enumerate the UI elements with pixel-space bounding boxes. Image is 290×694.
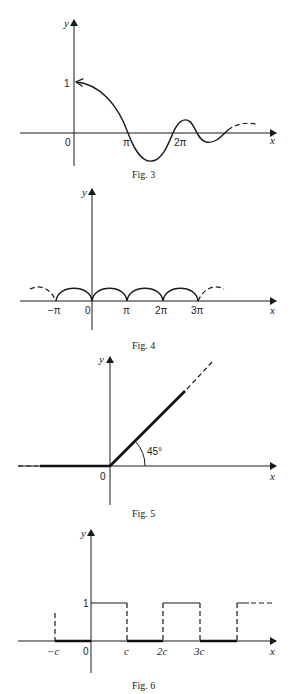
x-tick-neg-c: −c [47, 645, 59, 657]
fig-3-caption: Fig. 3 [132, 169, 155, 180]
x-tick-c: c [124, 645, 129, 657]
x-axis-label: x [269, 134, 275, 146]
fig-5-caption: Fig. 5 [132, 508, 155, 519]
y-axis-label: y [80, 527, 86, 539]
figure-4: y x −π 0 π 2π 3π Fig. 4 [20, 186, 276, 351]
y-tick-1: 1 [64, 78, 70, 89]
x-tick-pi: π [123, 305, 130, 316]
arch-continuation-right [198, 287, 224, 301]
x-tick-2pi: 2π [174, 137, 187, 148]
y-axis-label: y [63, 17, 69, 29]
x-tick-neg-pi: −π [48, 305, 61, 316]
x-tick-3c: 3c [193, 645, 205, 657]
ramp-continuation [187, 362, 212, 389]
fig-6-caption: Fig. 6 [132, 680, 155, 691]
figure-3: y x 1 0 π 2π Fig. 3 [20, 17, 276, 180]
y-axis-label: y [98, 353, 104, 365]
y-tick-1: 1 [83, 598, 89, 609]
x-tick-pi: π [123, 137, 130, 148]
figures-canvas: y x 1 0 π 2π Fig. 3 y x −π 0 π 2π 3π Fig… [0, 0, 290, 694]
origin-label: 0 [65, 137, 71, 148]
curve-continuation [228, 123, 256, 130]
fig-4-caption: Fig. 4 [132, 340, 155, 351]
x-tick-0: 0 [83, 646, 89, 657]
arches-curve [56, 288, 198, 301]
y-axis-label: y [81, 186, 87, 198]
angle-label: 45° [147, 446, 162, 457]
x-axis-label: x [269, 470, 275, 482]
x-tick-2pi: 2π [155, 305, 168, 316]
x-tick-2c: 2c [157, 645, 168, 657]
figure-6: y x 1 −c 0 c 2c 3c Fig. 6 [18, 527, 276, 691]
x-axis-label: x [269, 304, 275, 316]
x-axis-label: x [269, 645, 275, 657]
damped-oscillation-curve [76, 82, 228, 161]
x-tick-3pi: 3π [191, 305, 204, 316]
x-tick-0: 0 [85, 305, 91, 316]
origin-label: 0 [100, 471, 106, 482]
figure-5: y x 0 45° Fig. 5 [18, 353, 276, 519]
angle-arc [135, 441, 145, 466]
arch-continuation-left [30, 287, 56, 301]
